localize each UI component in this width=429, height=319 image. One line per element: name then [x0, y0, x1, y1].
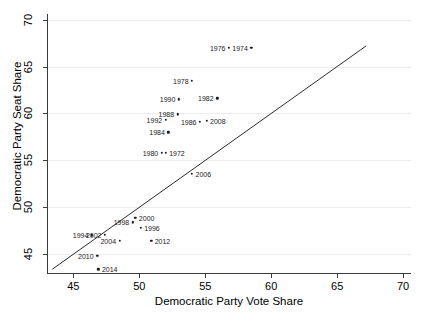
y-axis-title: Democratic Party Seat Share	[11, 1, 23, 271]
data-point	[178, 98, 180, 100]
y-axis-tick	[43, 113, 47, 114]
data-point	[150, 240, 152, 242]
x-axis-tick-label: 55	[199, 280, 211, 292]
data-point	[161, 152, 163, 154]
data-point	[164, 119, 166, 121]
data-point	[132, 221, 134, 223]
y-axis-tick-label: 50	[22, 201, 34, 213]
data-point	[191, 172, 193, 174]
data-point-label: 1986	[181, 118, 197, 125]
scatter-plot-figure: 1972197419761978198019821984198619881990…	[0, 0, 429, 319]
data-point-label: 2004	[100, 238, 116, 245]
data-point-label: 1980	[143, 149, 159, 156]
data-point-label: 1990	[160, 96, 176, 103]
y-axis-tick-label: 45	[22, 248, 34, 260]
data-point	[139, 227, 141, 229]
data-point	[96, 255, 98, 257]
y-axis-tick-label: 70	[22, 14, 34, 26]
data-point	[97, 268, 99, 270]
data-point	[250, 47, 252, 49]
y-axis-tick	[43, 254, 47, 255]
data-point-label: 1996	[144, 224, 160, 231]
gridline	[47, 160, 411, 161]
data-point	[205, 120, 207, 122]
x-axis-tick-label: 70	[397, 280, 409, 292]
data-point	[191, 79, 193, 81]
x-axis-tick	[73, 274, 74, 278]
data-point-label: 1982	[198, 95, 214, 102]
data-point-label: 2010	[78, 253, 94, 260]
x-axis-tick-label: 45	[67, 280, 79, 292]
gridline	[47, 254, 411, 255]
y-axis-tick	[43, 160, 47, 161]
plot-area: 1972197419761978198019821984198619881990…	[47, 14, 411, 273]
gridline	[47, 20, 411, 21]
gridline	[47, 113, 411, 114]
y-axis-tick-label: 55	[22, 154, 34, 166]
data-point	[216, 97, 218, 99]
y-axis-tick	[43, 20, 47, 21]
data-point-label: 1992	[147, 117, 163, 124]
x-axis-tick	[139, 274, 140, 278]
y-axis-tick-label: 65	[22, 60, 34, 72]
x-axis-tick	[403, 274, 404, 278]
x-axis-tick-label: 50	[133, 280, 145, 292]
x-axis-tick	[271, 274, 272, 278]
data-point	[134, 216, 136, 218]
data-point-label: 1976	[210, 44, 226, 51]
data-point-label: 2006	[196, 170, 212, 177]
y-axis-tick	[43, 207, 47, 208]
gridline	[47, 207, 411, 208]
x-axis-title: Democratic Party Vote Share	[47, 295, 411, 307]
data-point-label: 1978	[173, 77, 189, 84]
data-point	[164, 152, 166, 154]
data-point	[199, 121, 201, 123]
data-point	[167, 131, 169, 133]
x-axis-tick	[205, 274, 206, 278]
y-axis-line	[47, 14, 48, 274]
data-point	[228, 47, 230, 49]
y-axis-tick-label: 60	[22, 107, 34, 119]
data-point-label: 2008	[210, 117, 226, 124]
x-axis-tick	[337, 274, 338, 278]
gridline	[47, 67, 411, 68]
data-point-label: 2012	[155, 238, 171, 245]
data-point-label: 1974	[232, 44, 248, 51]
data-point-label: 1972	[169, 149, 185, 156]
data-point	[118, 240, 120, 242]
x-axis-line	[47, 273, 411, 274]
x-axis-tick-label: 65	[331, 280, 343, 292]
data-point	[104, 233, 106, 235]
data-point-label: 1984	[149, 129, 165, 136]
x-axis-tick-label: 60	[265, 280, 277, 292]
data-point-label: 2002	[86, 231, 102, 238]
y-axis-tick	[43, 67, 47, 68]
data-point-label: 2000	[139, 214, 155, 221]
data-point-label: 2014	[102, 266, 118, 273]
data-point-label: 1998	[114, 219, 130, 226]
